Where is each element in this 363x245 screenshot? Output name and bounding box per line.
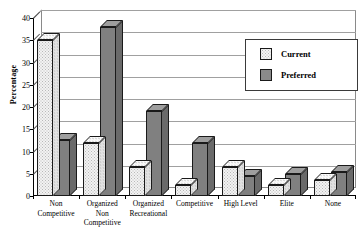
x-axis-tick-mark [264,196,265,199]
x-axis-tick-mark [310,196,311,199]
x-axis-tick-mark [125,196,126,199]
bar-side-face [116,20,123,196]
bar-front-face [222,167,238,196]
bar-side-face [53,33,60,196]
y-axis-tick-label: 40 [22,15,30,23]
legend-label-preferred: Preferred [281,70,316,80]
bar-group [83,18,129,196]
bar-group [175,18,221,196]
bar-side-face [99,136,106,196]
bar-current [129,167,145,196]
chart-legend: Current Preferred [245,39,358,91]
bar-group [129,18,175,196]
x-axis-tick-mark [33,196,34,199]
bar-front-face [37,40,53,196]
bar-front-face [129,167,145,196]
legend-item-preferred: Preferred [260,69,316,81]
bar-side-face [70,133,77,196]
x-axis-tick-mark [355,196,356,199]
bar-current [314,180,330,196]
y-axis-tick-label: 20 [22,104,30,112]
bar-current [222,167,238,196]
legend-label-current: Current [281,49,311,59]
gridline [41,10,356,11]
x-axis-tick-label: None [304,199,362,209]
bar-front-face [175,185,191,196]
y-axis-tick-label: 15 [22,126,30,134]
x-axis-tick-mark [218,196,219,199]
y-axis-tick-label: 5 [26,171,30,179]
bar-front-face [83,143,99,196]
bar-group [37,18,83,196]
y-axis-tick-label: 30 [22,60,30,68]
y-axis-tick-label: 25 [22,82,30,90]
legend-swatch-preferred-icon [260,69,272,81]
bar-side-face [162,104,169,196]
y-axis-title: Percentage [9,50,18,120]
legend-item-current: Current [260,48,311,60]
bar-current [175,185,191,196]
legend-swatch-current-icon [260,48,272,60]
bar-current [83,143,99,196]
y-axis-tick-label: 10 [22,149,30,157]
x-axis-tick-mark [79,196,80,199]
x-axis-labels: Non CompetitiveOrganized Non Competitive… [33,199,356,243]
bar-current [268,185,284,196]
bar-front-face [314,180,330,196]
bar-chart: Percentage 0510152025303540 Non Competit… [0,0,363,245]
x-axis-tick-mark [171,196,172,199]
y-axis-tick-label: 35 [22,37,30,45]
bar-side-face [208,136,215,196]
bar-current [37,40,53,196]
bar-front-face [268,185,284,196]
